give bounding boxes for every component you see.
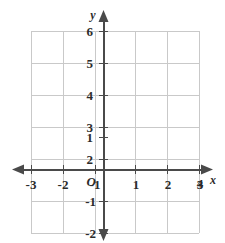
x-tick-label--3: -3 [26,177,37,192]
horizontal-gridlines [31,32,199,234]
origin-label: O [87,174,97,189]
x-tick-label-1: 1 [133,177,140,192]
y-tick-label-4: 4 [87,88,94,103]
x-axis [12,165,213,175]
y-tick-label-5: 5 [87,56,94,71]
y-axis [99,10,109,241]
vertical-gridlines [32,31,200,233]
x-tick-label-2: 2 [165,177,172,192]
y-tick-label-6: 6 [87,24,94,39]
y-axis-arrow-down-icon [99,229,109,241]
y-tick-label--2: -2 [85,226,96,241]
y-axis-tick-labels: 6 5 4 3 2 1 -1 -2 [85,24,96,241]
y-tick-label-1: 1 [87,130,94,145]
y-axis-arrow-up-icon [99,10,109,22]
x-axis-arrow-left-icon [12,165,24,175]
y-axis-label: y [88,8,96,22]
x-axis-label: x [209,173,216,187]
x-tick-label--2: -2 [58,177,69,192]
coordinate-plane: -3 -2 -1 1 2 3 6 5 4 3 2 1 -1 -2 O x y 4 [0,0,225,243]
coordinate-grid-graph: -3 -2 -1 1 2 3 6 5 4 3 2 1 -1 -2 O x y [0,0,225,243]
x-axis-tick-labels: -3 -2 -1 1 2 3 [26,177,204,192]
y-tick-label-2: 2 [87,152,94,167]
x-tick-label-4: 4 [193,176,207,192]
y-tick-label--1: -1 [85,194,96,209]
